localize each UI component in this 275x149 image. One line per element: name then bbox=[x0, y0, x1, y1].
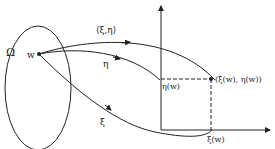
eta-value-label: η(w) bbox=[162, 82, 180, 91]
image-point bbox=[209, 77, 213, 81]
eta-map-curve bbox=[39, 51, 160, 80]
region-omega-label: Ω bbox=[6, 46, 15, 59]
xi-map-arrowhead bbox=[105, 105, 111, 110]
region-omega bbox=[5, 26, 71, 149]
mapping-diagram: Ω w ⟨ξ,η⟩ η ξ (ξ(w), η(w)) η(w) ξ(w) bbox=[0, 0, 275, 149]
xi-map-label: ξ bbox=[100, 117, 105, 127]
pair-map-curve bbox=[39, 42, 215, 80]
image-point-label: (ξ(w), η(w)) bbox=[215, 75, 262, 84]
eta-map-label: η bbox=[103, 59, 108, 69]
point-w-label: w bbox=[27, 50, 35, 60]
xi-value-label: ξ(w) bbox=[207, 135, 225, 144]
pair-map-label: ⟨ξ,η⟩ bbox=[96, 25, 116, 35]
